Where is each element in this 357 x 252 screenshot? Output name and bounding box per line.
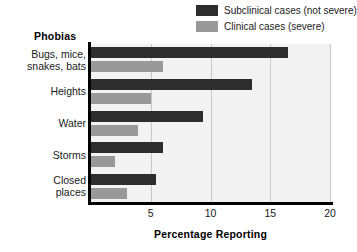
category-label-2: Water — [0, 117, 86, 129]
bar-subclinical-4 — [91, 174, 156, 185]
gridline-10 — [211, 44, 212, 202]
category-label-line: Bugs, mice, — [0, 48, 86, 60]
x-tick-label-15: 15 — [255, 207, 285, 219]
category-label-line: Storms — [0, 149, 86, 161]
gridline-15 — [270, 44, 271, 202]
x-tick-label-20: 20 — [315, 207, 345, 219]
x-tick-label-10: 10 — [196, 207, 226, 219]
legend-swatch-clinical — [196, 21, 218, 32]
gridline-20 — [330, 44, 331, 202]
bar-subclinical-1 — [91, 79, 252, 90]
legend-item-clinical: Clinical cases (severe) — [196, 19, 354, 34]
x-axis-line — [88, 202, 333, 205]
category-label-line: places — [0, 186, 86, 198]
category-label-line: Heights — [0, 85, 86, 97]
x-tick-label-5: 5 — [136, 207, 166, 219]
category-label-line: snakes, bats — [0, 60, 86, 72]
bar-clinical-3 — [91, 156, 115, 167]
bar-clinical-0 — [91, 61, 163, 72]
category-label-3: Storms — [0, 149, 86, 161]
y-axis-title: Phobias — [34, 30, 76, 42]
x-axis-title: Percentage Reporting — [91, 228, 330, 240]
category-label-0: Bugs, mice,snakes, bats — [0, 48, 86, 72]
category-label-line: Closed — [0, 174, 86, 186]
y-axis-line — [88, 42, 91, 204]
bar-clinical-1 — [91, 93, 151, 104]
category-label-4: Closedplaces — [0, 174, 86, 198]
bar-clinical-2 — [91, 125, 138, 136]
legend-label-subclinical: Subclinical cases (not severe) — [224, 5, 357, 16]
legend-swatch-subclinical — [196, 5, 218, 16]
bar-subclinical-0 — [91, 47, 288, 58]
legend-label-clinical: Clinical cases (severe) — [224, 21, 325, 32]
chart-legend: Subclinical cases (not severe) Clinical … — [196, 3, 354, 35]
category-label-1: Heights — [0, 85, 86, 97]
bar-subclinical-3 — [91, 142, 163, 153]
bar-clinical-4 — [91, 188, 127, 199]
bar-subclinical-2 — [91, 111, 203, 122]
legend-item-subclinical: Subclinical cases (not severe) — [196, 3, 354, 18]
plot-area — [91, 44, 330, 202]
category-label-line: Water — [0, 117, 86, 129]
